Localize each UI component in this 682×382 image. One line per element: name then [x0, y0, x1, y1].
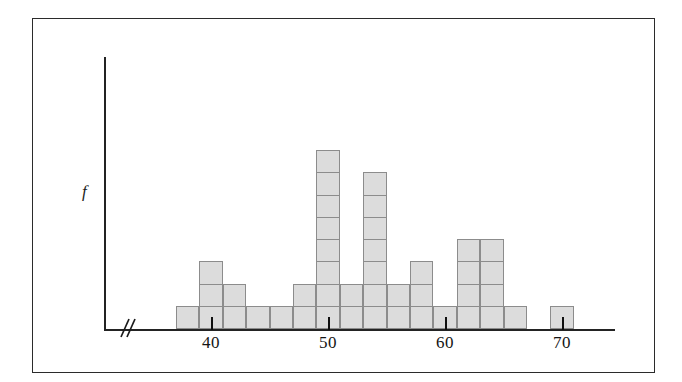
histogram-bar — [176, 307, 199, 329]
x-axis-tick-label: 60 — [436, 333, 454, 353]
histogram-bar-cell — [363, 239, 386, 262]
x-axis-tick — [562, 317, 564, 330]
x-axis-tick-label: 50 — [319, 333, 337, 353]
histogram-bar-cell — [340, 284, 363, 307]
histogram-bar-cell — [363, 306, 386, 329]
histogram-bar — [293, 285, 316, 329]
histogram-bar-cell — [410, 306, 433, 329]
histogram-bar-cell — [176, 306, 199, 329]
figure-frame: f 40506070 — [32, 18, 655, 373]
histogram-bar-cell — [387, 284, 410, 307]
histogram-bar-cell — [246, 306, 269, 329]
x-axis-tick — [445, 317, 447, 330]
histogram-bar — [387, 285, 410, 329]
histogram-bar-cell — [410, 261, 433, 284]
histogram-bar-cell — [316, 172, 339, 195]
histogram-bar-cell — [457, 284, 480, 307]
histogram-bar-cell — [480, 261, 503, 284]
histogram-bar-cell — [480, 284, 503, 307]
histogram-bar-cell — [363, 195, 386, 218]
histogram-bar — [363, 174, 386, 329]
histogram-bar-cell — [199, 284, 222, 307]
histogram-bar — [410, 262, 433, 329]
histogram-bar-cell — [480, 239, 503, 262]
histogram-bar-cell — [316, 284, 339, 307]
histogram-bar-cell — [223, 284, 246, 307]
histogram-bar-cell — [293, 284, 316, 307]
histogram-bar-cell — [480, 306, 503, 329]
histogram-bar-cell — [457, 239, 480, 262]
histogram-bar — [480, 240, 503, 329]
histogram-bar-cell — [457, 261, 480, 284]
histogram-bar-cell — [363, 261, 386, 284]
histogram-bar-cell — [340, 306, 363, 329]
histogram-bar-cell — [363, 217, 386, 240]
histogram-bar-cell — [316, 217, 339, 240]
histogram-bar — [316, 151, 339, 329]
histogram-bar-cell — [387, 306, 410, 329]
histogram-bar — [504, 307, 527, 329]
x-axis-tick — [328, 317, 330, 330]
histogram-bar — [340, 285, 363, 329]
plot-area: f 40506070 — [33, 19, 656, 374]
histogram-bar-cell — [270, 306, 293, 329]
histogram-bar-cell — [316, 239, 339, 262]
histogram-bar-cell — [363, 172, 386, 195]
x-axis-tick — [211, 317, 213, 330]
histogram-bar-cell — [363, 284, 386, 307]
histogram-bar — [246, 307, 269, 329]
histogram-bar-cell — [316, 195, 339, 218]
x-axis-tick-label: 70 — [553, 333, 571, 353]
histogram-bar — [457, 240, 480, 329]
histogram-bar-cell — [504, 306, 527, 329]
histogram-bar-cell — [316, 150, 339, 173]
histogram-bar-cell — [410, 284, 433, 307]
histogram-bar — [223, 285, 246, 329]
histogram-bar — [270, 307, 293, 329]
x-axis-tick-label: 40 — [202, 333, 220, 353]
histogram-bar-cell — [457, 306, 480, 329]
histogram-bar-cell — [223, 306, 246, 329]
histogram-bar-cell — [293, 306, 316, 329]
histogram-bar-cell — [199, 261, 222, 284]
histogram-bar-cell — [316, 261, 339, 284]
